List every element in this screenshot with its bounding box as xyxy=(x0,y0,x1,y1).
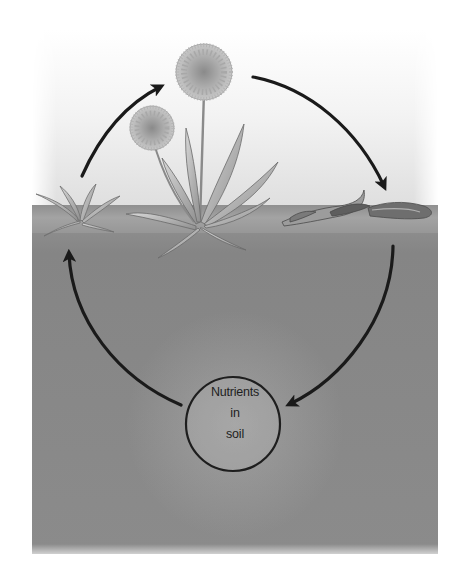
nutrient-cycle-diagram: Nutrients in soil xyxy=(0,0,457,581)
arrow-soil-to-young xyxy=(69,254,181,405)
label-line-3: soil xyxy=(186,424,284,445)
cycle-arrows xyxy=(69,77,393,405)
label-line-1: Nutrients xyxy=(186,382,284,403)
decaying-plant-illustration xyxy=(282,190,432,226)
label-line-2: in xyxy=(186,403,284,424)
nutrients-in-soil-label: Nutrients in soil xyxy=(186,382,284,445)
young-plant-illustration xyxy=(36,184,120,236)
arrow-decaying-to-soil xyxy=(290,246,393,404)
diagram-illustration xyxy=(0,0,457,581)
